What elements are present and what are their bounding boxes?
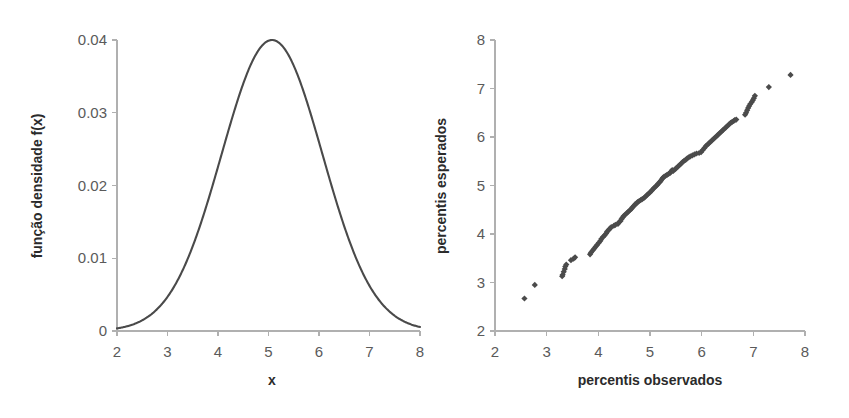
x-tick-label: 8 bbox=[801, 343, 809, 360]
x-tick-label: 6 bbox=[697, 343, 705, 360]
x-tick-label: 2 bbox=[113, 343, 121, 360]
x-tick-label: 6 bbox=[315, 343, 323, 360]
y-tick-label: 4 bbox=[477, 225, 485, 242]
y-tick-label: 0.01 bbox=[78, 249, 107, 266]
qq-y-axis-title: percentis esperados bbox=[433, 118, 449, 254]
x-tick-label: 5 bbox=[646, 343, 654, 360]
density-plot-svg: 00.010.020.030.042345678 função densidad… bbox=[0, 0, 425, 418]
qq-plot-svg: 23456782345678 percentis esperados perce… bbox=[424, 0, 849, 418]
y-tick-label: 5 bbox=[477, 177, 485, 194]
qq-scatter-points bbox=[521, 72, 793, 302]
qq-x-axis-title: percentis observados bbox=[578, 372, 723, 388]
scatter-marker bbox=[521, 295, 527, 301]
scatter-marker bbox=[766, 84, 772, 90]
y-tick-label: 0.04 bbox=[78, 31, 107, 48]
scatter-marker bbox=[532, 282, 538, 288]
density-x-axis-title: x bbox=[268, 372, 276, 388]
density-curve bbox=[117, 40, 420, 328]
qq-plot-panel: 23456782345678 percentis esperados perce… bbox=[424, 0, 849, 418]
y-tick-label: 0.03 bbox=[78, 104, 107, 121]
y-tick-label: 2 bbox=[477, 322, 485, 339]
x-tick-label: 3 bbox=[542, 343, 550, 360]
x-tick-label: 4 bbox=[594, 343, 602, 360]
x-tick-label: 7 bbox=[749, 343, 757, 360]
x-tick-label: 3 bbox=[163, 343, 171, 360]
scatter-marker bbox=[787, 72, 793, 78]
y-tick-label: 0 bbox=[99, 322, 107, 339]
y-tick-label: 8 bbox=[477, 31, 485, 48]
qq-axis-lines bbox=[495, 40, 805, 331]
y-tick-label: 7 bbox=[477, 80, 485, 97]
x-tick-label: 2 bbox=[491, 343, 499, 360]
x-tick-label: 4 bbox=[214, 343, 222, 360]
density-y-axis-title: função densidade f(x) bbox=[29, 114, 45, 259]
x-tick-label: 5 bbox=[264, 343, 272, 360]
density-plot-panel: 00.010.020.030.042345678 função densidad… bbox=[0, 0, 425, 418]
x-tick-label: 8 bbox=[416, 343, 424, 360]
y-tick-label: 3 bbox=[477, 274, 485, 291]
y-tick-label: 6 bbox=[477, 128, 485, 145]
density-axis-lines bbox=[117, 40, 420, 331]
y-tick-label: 0.02 bbox=[78, 177, 107, 194]
qq-axes bbox=[490, 40, 805, 336]
x-tick-label: 7 bbox=[365, 343, 373, 360]
density-tick-labels: 00.010.020.030.042345678 bbox=[78, 31, 424, 360]
figure-container: 00.010.020.030.042345678 função densidad… bbox=[0, 0, 849, 418]
qq-tick-labels: 23456782345678 bbox=[477, 31, 810, 360]
